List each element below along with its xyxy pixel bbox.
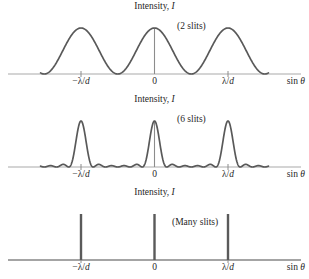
six-slit-panel: Intensity, I −λ/d 0 λ/d sin θ (6 slits) <box>0 93 309 186</box>
panel-caption: (Many slits) <box>172 218 218 228</box>
x-axis-label: sin θ <box>287 263 305 273</box>
y-axis-label: Intensity, I <box>134 188 175 198</box>
x-tick-label-left: −λ/d <box>72 77 89 87</box>
x-tick-label-center: 0 <box>152 170 157 180</box>
x-tick-label-left: −λ/d <box>72 263 89 273</box>
x-tick-label-center: 0 <box>152 77 157 87</box>
many-slit-panel: Intensity, I −λ/d 0 λ/d sin θ (Many slit… <box>0 186 309 279</box>
x-axis-label: sin θ <box>287 170 305 180</box>
y-axis-label: Intensity, I <box>134 95 175 105</box>
x-tick-label-left: −λ/d <box>72 170 89 180</box>
x-tick-label-center: 0 <box>152 263 157 273</box>
x-axis-label: sin θ <box>287 77 305 87</box>
interference-intensity-figure: Intensity, I −λ/d 0 λ/d sin θ (2 slits) … <box>0 0 309 279</box>
panel-caption: (2 slits) <box>177 22 206 32</box>
two-slit-panel: Intensity, I −λ/d 0 λ/d sin θ (2 slits) <box>0 0 309 93</box>
panel-caption: (6 slits) <box>177 115 206 125</box>
y-axis-label: Intensity, I <box>134 2 175 12</box>
x-tick-label-right: λ/d <box>222 170 234 180</box>
x-tick-label-right: λ/d <box>222 77 234 87</box>
x-tick-label-right: λ/d <box>222 263 234 273</box>
